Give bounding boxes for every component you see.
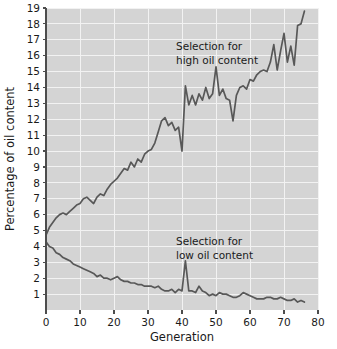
y-axis-tick-labels: 12345678910111213141516171819 [27, 2, 41, 300]
y-tick-label-6: 6 [33, 208, 40, 220]
x-axis-ticks [46, 310, 318, 314]
y-tick-label-19: 19 [27, 2, 40, 14]
figure-container: 12345678910111213141516171819 0102030405… [0, 0, 337, 349]
oil-content-line-chart: 12345678910111213141516171819 0102030405… [0, 0, 337, 349]
x-tick-label-0: 0 [43, 316, 50, 328]
x-tick-label-70: 70 [277, 316, 290, 328]
x-tick-label-50: 50 [209, 316, 222, 328]
y-tick-label-9: 9 [33, 161, 40, 173]
x-tick-label-60: 60 [243, 316, 256, 328]
y-tick-label-1: 1 [33, 288, 40, 300]
y-tick-label-15: 15 [27, 65, 40, 77]
y-tick-label-14: 14 [27, 81, 41, 93]
y-tick-label-3: 3 [33, 256, 40, 268]
annotation-high-line2: high oil content [176, 54, 258, 66]
y-tick-label-18: 18 [27, 18, 40, 30]
y-tick-label-12: 12 [27, 113, 40, 125]
annotation-high-line1: Selection for [176, 40, 243, 52]
y-tick-label-16: 16 [27, 49, 41, 61]
x-axis-tick-labels: 01020304050607080 [43, 316, 325, 328]
y-tick-label-7: 7 [33, 192, 40, 204]
annotation-low-line1: Selection for [176, 235, 243, 247]
x-tick-label-40: 40 [175, 316, 188, 328]
y-tick-label-2: 2 [33, 272, 40, 284]
y-tick-label-13: 13 [27, 97, 40, 109]
y-tick-label-17: 17 [27, 33, 40, 45]
x-axis-title: Generation [150, 330, 214, 344]
y-tick-label-5: 5 [33, 224, 40, 236]
x-tick-label-30: 30 [141, 316, 154, 328]
y-tick-label-10: 10 [27, 145, 40, 157]
annotation-low-line2: low oil content [176, 249, 253, 261]
y-axis-title: Percentage of oil content [3, 86, 17, 231]
y-tick-label-4: 4 [33, 240, 40, 252]
y-tick-label-11: 11 [27, 129, 40, 141]
x-tick-label-80: 80 [311, 316, 324, 328]
x-tick-label-10: 10 [73, 316, 86, 328]
y-tick-label-8: 8 [33, 177, 40, 189]
x-tick-label-20: 20 [107, 316, 120, 328]
chart-plot-area: 12345678910111213141516171819 0102030405… [0, 0, 337, 349]
